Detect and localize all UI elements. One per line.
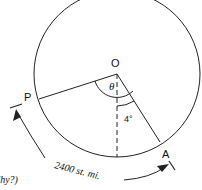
partial-caption-text: 'hy?) — [0, 174, 19, 186]
arc-arrow-right — [124, 167, 165, 180]
radius-op — [39, 74, 117, 99]
arrowhead-left-icon — [13, 109, 21, 121]
arc-arrow-left — [17, 112, 45, 158]
geometry-diagram: O P A θ 4° 2400 st. mi. 'hy?) — [0, 0, 202, 190]
label-theta: θ — [109, 80, 115, 92]
label-four-degrees: 4° — [124, 114, 133, 124]
tick-left — [10, 104, 22, 108]
label-distance: 2400 st. mi. — [54, 159, 102, 181]
four-degree-angle-arc — [117, 101, 134, 106]
radius-oa — [117, 74, 160, 142]
label-a: A — [162, 148, 170, 160]
label-p: P — [24, 91, 31, 103]
label-o: O — [111, 57, 120, 69]
tick-right — [169, 161, 175, 170]
